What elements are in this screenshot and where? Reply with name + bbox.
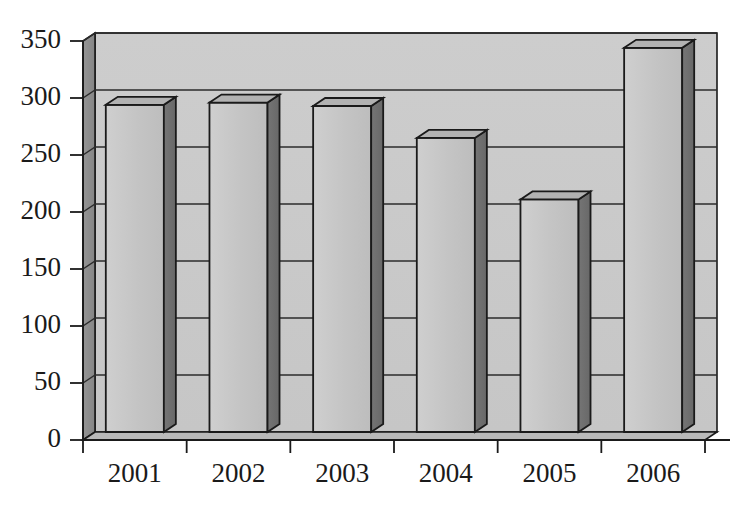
bar-front-face: [313, 106, 371, 432]
bar-front-face: [520, 199, 578, 432]
bar-top-face: [313, 98, 383, 106]
y-axis-labels: 050100150200250300350: [21, 24, 62, 453]
bar-top-face: [624, 40, 694, 48]
bar-top-face: [106, 97, 176, 105]
bar-2006: [624, 40, 694, 432]
x-axis-label: 2005: [523, 458, 577, 488]
bar-side-face: [579, 191, 591, 432]
x-axis-label: 2006: [626, 458, 680, 488]
y-axis-label: 250: [21, 138, 62, 168]
bar-front-face: [209, 103, 267, 432]
x-axis-labels: 200120022003200420052006: [108, 458, 680, 488]
plot-walls: [83, 33, 717, 440]
bar-front-face: [624, 48, 682, 432]
bar-front-face: [106, 105, 164, 432]
chart-canvas: 050100150200250300350 200120022003200420…: [0, 0, 735, 512]
bar-side-face: [475, 130, 487, 432]
bar-top-face: [520, 191, 590, 199]
bar-side-face: [164, 97, 176, 432]
floor: [83, 432, 717, 440]
bar-2005: [520, 191, 590, 432]
y-axis-ticks: [70, 41, 83, 440]
y-axis-label: 200: [21, 195, 62, 225]
bar-side-face: [682, 40, 694, 432]
bar-2003: [313, 98, 383, 432]
bar-side-face: [268, 95, 280, 432]
y-axis-label: 100: [21, 309, 62, 339]
bar-2001: [106, 97, 176, 432]
bar-2002: [209, 95, 279, 432]
bar-side-face: [371, 98, 383, 432]
x-axis-ticks: [83, 440, 705, 453]
x-axis-label: 2003: [315, 458, 369, 488]
y-axis-label: 300: [21, 81, 62, 111]
x-axis-label: 2001: [108, 458, 162, 488]
y-axis-label: 350: [21, 24, 62, 54]
x-axis-label: 2002: [212, 458, 266, 488]
bar-2004: [417, 130, 487, 432]
bar-top-face: [209, 95, 279, 103]
y-axis-label: 50: [34, 366, 61, 396]
bar-top-face: [417, 130, 487, 138]
y-axis-label: 150: [21, 252, 62, 282]
bar-chart-3d: 050100150200250300350 200120022003200420…: [0, 0, 735, 512]
y-axis-label: 0: [48, 423, 62, 453]
bar-front-face: [417, 138, 475, 432]
x-axis-label: 2004: [419, 458, 474, 488]
